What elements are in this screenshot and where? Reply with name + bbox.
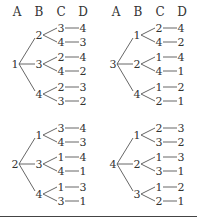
root-node: 4 [110, 159, 117, 170]
c-node: 2 [156, 196, 163, 207]
d-node: 1 [80, 196, 87, 207]
c-node: 4 [58, 37, 65, 48]
c-node: 1 [156, 182, 163, 193]
c-node: 2 [156, 123, 163, 134]
d-node: 3 [80, 37, 87, 48]
d-node: 3 [178, 152, 185, 163]
b-node: 3 [36, 59, 43, 70]
c-node: 4 [156, 37, 163, 48]
c-node: 4 [156, 66, 163, 77]
root-node: 1 [12, 59, 19, 70]
b-node: 2 [134, 59, 141, 70]
c-node: 4 [58, 66, 65, 77]
d-node: 4 [80, 152, 87, 163]
c-node: 1 [58, 152, 65, 163]
b-node: 4 [36, 89, 43, 100]
root-node: 3 [110, 59, 117, 70]
tree-root-1: 1234433244242332 [0, 0, 98, 105]
d-node: 3 [80, 137, 87, 148]
d-node: 2 [178, 137, 185, 148]
c-node: 1 [156, 52, 163, 63]
b-node: 2 [36, 30, 43, 41]
b-node: 1 [36, 130, 43, 141]
b-node: 1 [134, 30, 141, 41]
c-node: 2 [156, 23, 163, 34]
tree-root-2: 2134433144141331 [0, 100, 98, 205]
c-node: 4 [58, 166, 65, 177]
c-node: 3 [156, 137, 163, 148]
d-node: 2 [178, 37, 185, 48]
c-node: 3 [58, 23, 65, 34]
tree-root-4: 4123322133131221 [98, 100, 196, 205]
c-node: 1 [58, 182, 65, 193]
d-node: 4 [178, 52, 185, 63]
bottom-rule [0, 216, 197, 217]
b-node: 2 [134, 159, 141, 170]
d-node: 1 [178, 166, 185, 177]
root-node: 2 [12, 159, 19, 170]
d-node: 3 [80, 82, 87, 93]
c-node: 3 [58, 196, 65, 207]
b-node: 1 [134, 130, 141, 141]
tree-root-3: 3124422144141221 [98, 0, 196, 105]
c-node: 1 [156, 82, 163, 93]
d-node: 2 [80, 66, 87, 77]
d-node: 4 [80, 123, 87, 134]
b-node: 4 [134, 89, 141, 100]
d-node: 4 [178, 23, 185, 34]
c-node: 2 [58, 82, 65, 93]
c-node: 3 [58, 123, 65, 134]
b-node: 4 [36, 189, 43, 200]
b-node: 3 [134, 189, 141, 200]
d-node: 3 [178, 123, 185, 134]
d-node: 4 [80, 23, 87, 34]
d-node: 1 [80, 166, 87, 177]
d-node: 2 [178, 82, 185, 93]
d-node: 4 [80, 52, 87, 63]
d-node: 3 [80, 182, 87, 193]
c-node: 4 [58, 137, 65, 148]
c-node: 3 [156, 166, 163, 177]
d-node: 2 [178, 182, 185, 193]
c-node: 2 [58, 52, 65, 63]
d-node: 1 [178, 66, 185, 77]
d-node: 1 [178, 196, 185, 207]
b-node: 3 [36, 159, 43, 170]
c-node: 1 [156, 152, 163, 163]
